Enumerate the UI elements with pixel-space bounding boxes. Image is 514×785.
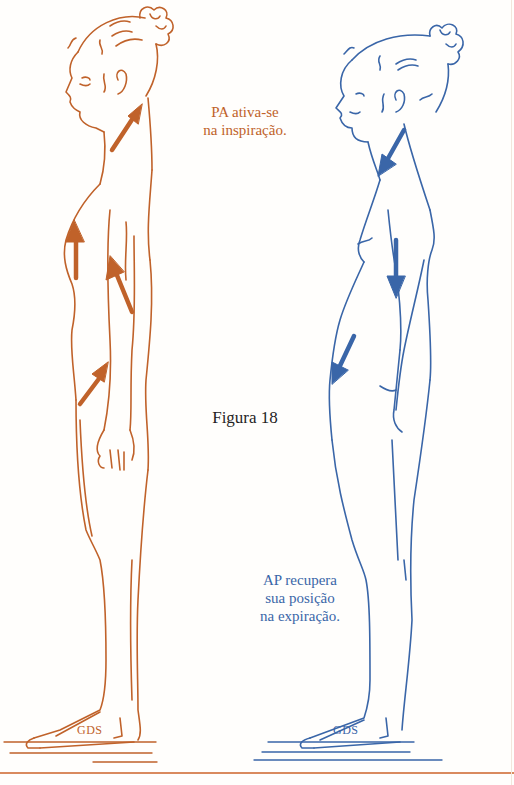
inspiration-caption-line-2: na inspiração. [190,121,300,139]
inspiration-figure [4,7,173,762]
expiration-arrows [332,130,405,384]
expiration-caption-line-3: na expiração. [240,607,360,625]
inspiration-caption: PA ativa-se na inspiração. [190,103,300,139]
arrow-up-icon [106,256,124,280]
expiration-caption-line-1: AP recupera [240,571,360,589]
inspiration-caption-line-1: PA ativa-se [190,103,300,121]
arrow-down-icon [338,336,354,370]
arrow-down-icon [386,130,404,162]
arrow-down-icon [387,276,405,298]
expiration-caption-line-2: sua posição [240,589,360,607]
bottom-divider [0,772,514,774]
left-floor-mark: GDS [77,723,103,738]
arrow-down-icon [378,154,396,176]
inspiration-arrows [66,104,142,404]
figure-label: Figura 18 [190,409,300,427]
expiration-caption: AP recupera sua posição na expiração. [240,571,360,625]
figure-page: PA ativa-se na inspiração. Figura 18 AP … [0,0,514,785]
right-floor-mark: GDS [333,723,359,738]
right-page-edge [511,0,512,785]
arrow-up-icon [92,362,108,382]
